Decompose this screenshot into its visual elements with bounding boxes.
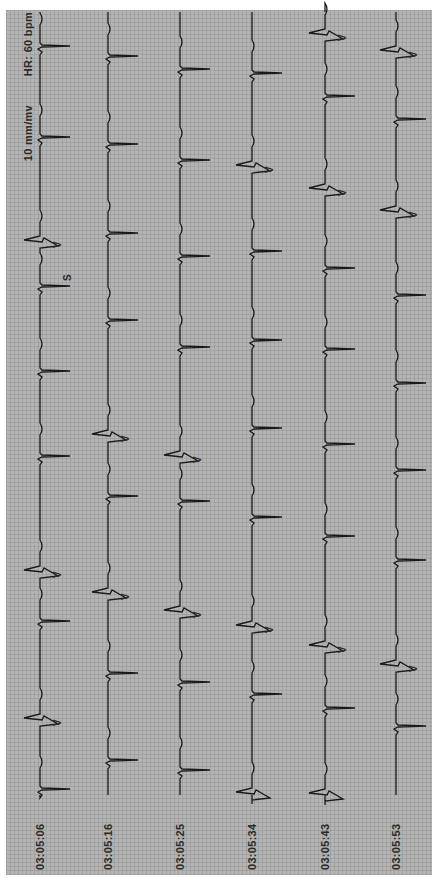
pvc-marker: V [52, 241, 63, 248]
pvc-marker: V [408, 211, 419, 218]
pvc-marker: V [408, 51, 419, 58]
strip-timestamp: 03:05:06 [34, 824, 46, 870]
pvc-marker: V [192, 611, 203, 618]
pvc-marker: V [120, 593, 131, 600]
strip-timestamp: 03:05:16 [102, 824, 114, 870]
strip-timestamp: 03:05:34 [246, 824, 258, 870]
ecg-trace-strip-2 [92, 12, 138, 795]
gain-label: 10 mm/mv [22, 105, 34, 161]
pvc-marker: V [52, 719, 63, 726]
ecg-trace-strip-3 [164, 12, 210, 795]
pvc-marker: V [408, 665, 419, 672]
strip-timestamp: 03:05:53 [390, 824, 402, 870]
pvc-marker: V [264, 166, 275, 173]
pvc-marker: V [120, 435, 131, 442]
strip-timestamp: 03:05:43 [319, 824, 331, 870]
pvc-marker: V [192, 456, 203, 463]
ecg-traces [0, 0, 441, 880]
heart-rate-label: HR: 60 bpm [22, 12, 34, 76]
pvc-marker: V [337, 34, 348, 41]
pvc-marker: V [264, 626, 275, 633]
ecg-trace-strip-4 [236, 12, 282, 804]
ecg-trace-strip-5 [309, 3, 355, 805]
ecg-trace-strip-6 [380, 12, 426, 795]
strip-timestamp: 03:05:25 [174, 824, 186, 870]
pvc-marker: V [337, 646, 348, 653]
pvc-marker: V [52, 571, 63, 578]
svpb-marker: S [62, 274, 73, 281]
pvc-marker: V [337, 189, 348, 196]
